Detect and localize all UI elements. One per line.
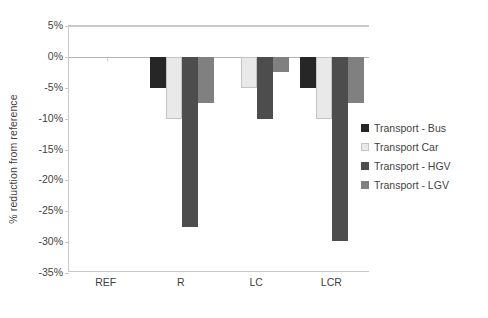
bar-groups [69,26,369,271]
bar-rect [316,57,332,119]
chart-legend: Transport - BusTransport CarTransport - … [361,122,485,191]
legend-item-label: Transport - LGV [374,179,449,191]
plot-area [68,25,369,272]
legend-item[interactable]: Transport - LGV [361,179,485,191]
x-axis-category-labels: REFRLCLCR [68,276,369,294]
y-axis-tick-mark [65,273,69,274]
legend-item[interactable]: Transport - Bus [361,122,485,134]
y-axis-tick-label: -5% [28,81,63,93]
bar-set [219,26,294,271]
legend-swatch-icon [361,124,369,132]
bar-set [144,26,219,271]
y-axis-tick-label: -35% [28,266,63,278]
bar-rect [166,57,182,119]
x-axis-category-label: LC [219,276,294,294]
bar-rect [300,57,316,88]
y-axis-tick-label: -25% [28,204,63,216]
legend-item-label: Transport - HGV [374,160,451,172]
bar-set [69,26,144,271]
bar-group [69,26,144,271]
y-axis-tick-label: 5% [28,19,63,31]
bar-group [219,26,294,271]
chart-figure: % reduction from reference 5%0%-5%-10%-1… [0,0,488,318]
legend-swatch-icon [361,143,369,151]
legend-swatch-icon [361,162,369,170]
bar-rect [241,57,257,88]
bar-rect [332,57,348,241]
legend-item[interactable]: Transport - HGV [361,160,485,172]
y-axis-title: % reduction from reference [0,0,26,318]
bar-set [294,26,369,271]
bar-rect [348,57,364,103]
x-axis-category-label: R [143,276,218,294]
legend-swatch-icon [361,181,369,189]
legend-item[interactable]: Transport Car [361,141,485,153]
x-axis-category-label: REF [68,276,143,294]
y-axis-tick-label: -20% [28,173,63,185]
bar-rect [273,57,289,72]
x-axis-category-label: LCR [294,276,369,294]
y-axis-tick-label: -15% [28,143,63,155]
bar-group [144,26,219,271]
legend-item-label: Transport Car [374,141,438,153]
y-axis-tick-label: 0% [28,50,63,62]
bar-rect [182,57,198,227]
bar-rect [198,57,214,103]
bar-rect [257,57,273,119]
y-axis-tick-labels: 5%0%-5%-10%-15%-20%-25%-30%-35% [28,25,63,272]
y-axis-tick-label: -30% [28,235,63,247]
y-axis-tick-label: -10% [28,112,63,124]
bar-group [294,26,369,271]
bar-rect [150,57,166,88]
legend-item-label: Transport - Bus [374,122,446,134]
